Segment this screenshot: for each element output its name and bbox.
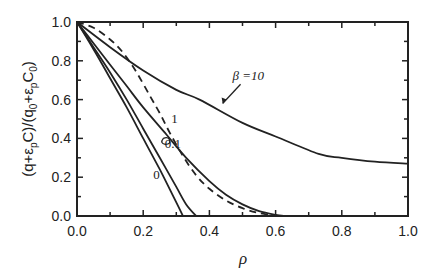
y-axis-label: (q+εpC)/(q0+εpC0) xyxy=(19,61,39,177)
y-tick-label: 0.0 xyxy=(52,208,72,224)
y-tick-label: 0.2 xyxy=(52,169,72,185)
plot-frame xyxy=(77,22,408,216)
y-tick-label: 0.6 xyxy=(52,92,72,108)
x-tick-label: 1.0 xyxy=(398,223,418,239)
x-tick-label: 0.6 xyxy=(266,223,286,239)
curves xyxy=(77,22,408,216)
y-tick-labels: 0.00.20.40.60.81.0 xyxy=(52,14,72,224)
axis-ticks xyxy=(77,22,408,216)
x-tick-label: 0.4 xyxy=(200,223,220,239)
curve-0 xyxy=(77,22,183,216)
line-chart: 0.00.20.40.60.81.0 0.00.20.40.60.81.0 ρ … xyxy=(0,0,433,278)
y-tick-label: 0.4 xyxy=(52,130,72,146)
y-tick-label: 0.8 xyxy=(52,53,72,69)
curve-label: β =10 xyxy=(232,68,265,83)
x-tick-label: 0.0 xyxy=(67,223,87,239)
curve-10 xyxy=(77,22,408,164)
x-tick-label: 0.8 xyxy=(332,223,352,239)
x-axis-label: ρ xyxy=(238,249,247,268)
curve-label: 1 xyxy=(171,111,178,126)
curve-1 xyxy=(77,22,286,216)
curve-label: 0 xyxy=(153,167,160,182)
x-tick-labels: 0.00.20.40.60.81.0 xyxy=(67,223,418,239)
y-tick-label: 1.0 xyxy=(52,14,72,30)
x-tick-label: 0.2 xyxy=(133,223,153,239)
